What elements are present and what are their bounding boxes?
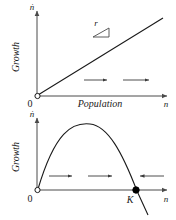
origin-label-exponential: 0 xyxy=(28,98,33,109)
y-axis-symbol-label-logistic: ṅ xyxy=(30,109,35,119)
panel-exponential-growth: ṅ Growth 0 Population n r xyxy=(10,2,169,109)
x-axis-symbol-label-exponential: n xyxy=(164,99,169,109)
y-axis-title-logistic: Growth xyxy=(10,142,21,172)
slope-label-r: r xyxy=(94,18,98,28)
equilibrium-point-origin-exponential xyxy=(35,93,40,98)
exponential-growth-line xyxy=(38,18,163,95)
figure-canvas: ṅ Growth 0 Population n r xyxy=(0,0,176,220)
slope-triangle-icon xyxy=(93,28,109,37)
growth-phase-diagrams-figure: ṅ Growth 0 Population n r xyxy=(0,0,176,220)
y-axis-title-exponential: Growth xyxy=(10,42,21,72)
panel-logistic-growth: ṅ Growth 0 K n xyxy=(10,109,169,215)
carrying-capacity-label-K: K xyxy=(126,194,135,205)
equilibrium-point-origin-logistic xyxy=(35,187,40,192)
x-axis-symbol-label-logistic: n xyxy=(164,194,169,204)
origin-label-logistic: 0 xyxy=(28,193,33,204)
equilibrium-point-carrying-capacity xyxy=(133,187,139,193)
x-axis-title-exponential: Population xyxy=(77,98,122,109)
y-axis-symbol-label-exponential: ṅ xyxy=(30,2,35,12)
